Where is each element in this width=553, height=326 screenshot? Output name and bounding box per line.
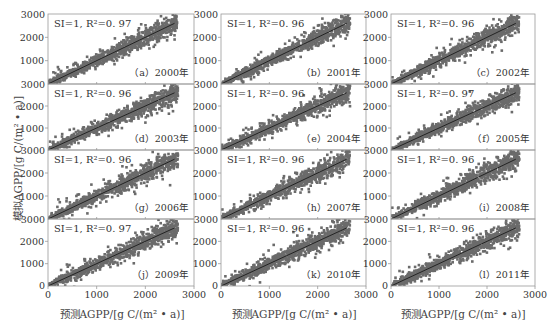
panel-label: （g）2006年 [129, 202, 189, 213]
x-tick-label: 2000 [133, 289, 157, 300]
y-tick-label: 3000 [364, 9, 388, 20]
y-axis-label: 模拟AGPP/[g C/(m² • a)] [10, 90, 24, 226]
fit-stats-annotation: SI=1, R²=0. 96 [227, 18, 304, 29]
scatter-points [391, 3, 521, 94]
fit-stats-annotation: SI=1, R²=0. 96 [227, 88, 304, 99]
x-tick-label: 2000 [306, 289, 330, 300]
x-tick-label: 3000 [523, 289, 547, 300]
fit-stats-annotation: SI=1, R²=0. 96 [54, 88, 131, 99]
panel-label: （j）2009年 [132, 269, 189, 280]
scatter-panel-2006: 100020003000SI=1, R²=0. 96（g）2006年 [20, 141, 194, 222]
fit-stats-annotation: SI=1, R²=0. 96 [397, 154, 474, 165]
y-tick-label: 2000 [193, 168, 217, 179]
y-tick-label: 1000 [363, 191, 387, 202]
x-tick-label: 1000 [257, 289, 281, 300]
panel-label: （a）2000年 [129, 67, 189, 78]
y-tick-label: 1000 [193, 123, 217, 134]
y-axis-label-text: 模拟AGPP/[g C/(m² • a)] [10, 96, 25, 221]
y-tick-label: 1000 [363, 123, 387, 134]
y-tick-label: 3000 [21, 9, 45, 20]
fit-stats-annotation: SI=1, R²=0. 96 [397, 18, 474, 29]
y-tick-label: 3000 [364, 214, 388, 225]
y-tick-label: 1000 [193, 191, 217, 202]
y-tick-label: 1000 [20, 55, 44, 66]
y-tick-label: 3000 [364, 145, 388, 156]
x-tick-label: 0 [45, 289, 51, 300]
y-tick-label: 3000 [194, 9, 218, 20]
y-tick-label: 3000 [364, 79, 388, 90]
y-tick-label: 2000 [193, 32, 217, 43]
y-tick-label: 1000 [193, 258, 217, 269]
scatter-panel-2001: 100020003000SI=1, R²=0. 96（b）2001年 [193, 9, 366, 89]
fit-stats-annotation: SI=1, R²=0. 97 [54, 223, 131, 234]
y-tick-label: 3000 [194, 145, 218, 156]
x-tick-label: 3000 [354, 289, 378, 300]
scatter-panel-2000: 100020003000SI=1, R²=0. 97（a）2000年 [20, 9, 194, 85]
panel-label: （d）2003年 [129, 133, 189, 144]
scatter-panel-2009: 10002000300000100020003000SI=1, R²=0. 97… [20, 214, 206, 300]
panel-label: （k）2010年 [301, 269, 361, 280]
y-tick-label: 2000 [193, 236, 217, 247]
panel-label: （e）2004年 [301, 133, 361, 144]
y-tick-label: 1000 [363, 55, 387, 66]
scatter-panel-2011: 10002000300000100020003000SI=1, R²=0. 96… [363, 214, 547, 300]
panel-label: （h）2007年 [301, 202, 361, 213]
fit-stats-annotation: SI=1, R²=0. 97 [54, 18, 131, 29]
x-tick-label: 0 [388, 289, 394, 300]
fit-stats-annotation: SI=1, R²=0. 96 [227, 154, 304, 165]
scatter-panel-2005: 100020003000SI=1, R²=0. 97（f）2005年 [363, 76, 535, 160]
x-tick-label: 1000 [427, 289, 451, 300]
scatter-panel-2007: 100020003000SI=1, R²=0. 96（h）2007年 [193, 142, 366, 222]
fit-stats-annotation: SI=1, R²=0. 96 [397, 223, 474, 234]
x-axis-label-col1: 预测AGPP/[g C/(m² • a)] [60, 306, 185, 321]
panel-label: （i）2008年 [473, 202, 530, 213]
y-tick-label: 2000 [363, 101, 387, 112]
y-tick-label: 2000 [193, 101, 217, 112]
x-tick-label: 1000 [85, 289, 109, 300]
scatter-figure: 模拟AGPP/[g C/(m² • a)] 100020003000SI=1, … [0, 0, 553, 326]
scatter-panel-2004: 100020003000SI=1, R²=0. 96（e）2004年 [193, 79, 366, 158]
y-tick-label: 2000 [363, 236, 387, 247]
x-axis-label-col2: 预测AGPP/[g C/(m² • a)] [232, 306, 357, 321]
x-tick-label: 2000 [475, 289, 499, 300]
scatter-panel-2003: 100020003000SI=1, R²=0. 96（d）2003年 [20, 79, 194, 159]
fit-stats-annotation: SI=1, R²=0. 96 [227, 223, 304, 234]
y-tick-label: 1000 [363, 258, 387, 269]
y-tick-label: 3000 [194, 214, 218, 225]
scatter-panel-2008: 100020003000SI=1, R²=0. 96（i）2008年 [363, 143, 535, 228]
y-tick-label: 3000 [194, 79, 218, 90]
panel-label: （b）2001年 [301, 67, 361, 78]
scatter-panel-2002: 100020003000SI=1, R²=0. 96（c）2002年 [363, 3, 535, 94]
panel-label: （f）2005年 [472, 133, 530, 144]
x-axis-label-col3: 预测AGPP/[g C/(m² • a)] [401, 306, 526, 321]
x-tick-label: 3000 [182, 289, 206, 300]
y-tick-label: 1000 [20, 258, 44, 269]
y-tick-label: 2000 [363, 32, 387, 43]
y-tick-label: 2000 [20, 236, 44, 247]
y-tick-label: 2000 [20, 32, 44, 43]
panel-label: （c）2002年 [471, 67, 531, 78]
x-tick-label: 0 [218, 289, 224, 300]
y-tick-label: 1000 [193, 55, 217, 66]
y-tick-label: 3000 [21, 79, 45, 90]
scatter-panel-2010: 10002000300000100020003000SI=1, R²=0. 96… [193, 214, 378, 300]
y-tick-label: 2000 [363, 168, 387, 179]
fit-stats-annotation: SI=1, R²=0. 96 [54, 154, 131, 165]
panel-label: （l）2011年 [473, 269, 530, 280]
fit-stats-annotation: SI=1, R²=0. 97 [397, 88, 474, 99]
panel-grid: 100020003000SI=1, R²=0. 97（a）2000年100020… [0, 0, 553, 326]
